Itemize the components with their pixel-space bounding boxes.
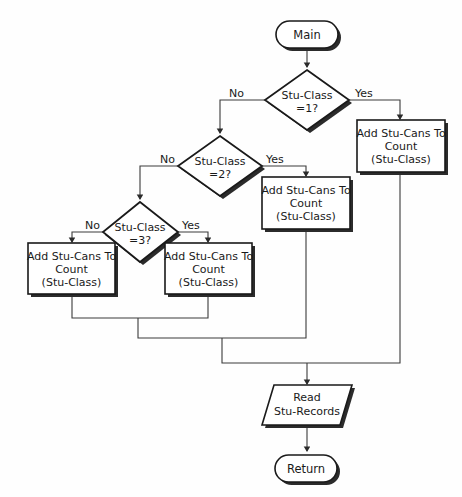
node-decision-stu-class-2[interactable]: Stu-Class =2? (178, 136, 265, 199)
node-process-add-cans-4[interactable]: Add Stu-Cans To Count (Stu-Class) (164, 243, 255, 297)
node-end-terminator[interactable]: Return (275, 455, 340, 485)
node-decision-stu-class-1[interactable]: Stu-Class =1? (265, 70, 352, 133)
node-proc3-label-line3: (Stu-Class) (42, 276, 102, 289)
node-proc1-label-line1: Add Stu-Cans To (356, 127, 446, 140)
node-proc2-label-line1: Add Stu-Cans To (261, 184, 351, 197)
node-dec2-label-line2: =2? (209, 168, 231, 181)
node-start-label: Main (293, 28, 320, 42)
edge-dec2-yes-to-proc2 (262, 166, 306, 176)
flowchart-svg: Main Stu-Class =1? No Yes Stu-Class =2? … (0, 0, 462, 497)
edge-railB-to-railC (222, 338, 307, 363)
node-read-label-line1: Read (293, 391, 321, 404)
node-proc3-label-line2: Count (55, 263, 88, 276)
node-process-add-cans-2[interactable]: Add Stu-Cans To Count (Stu-Class) (261, 177, 353, 232)
edge-dec3-yes-to-proc4 (178, 232, 208, 242)
node-proc3-label-line1: Add Stu-Cans To (27, 250, 117, 263)
edge-dec2-no-to-dec3 (140, 166, 178, 199)
edge-label-dec2-no: No (160, 153, 175, 166)
edge-railA-to-railB (138, 318, 222, 338)
node-process-add-cans-3[interactable]: Add Stu-Cans To Count (Stu-Class) (27, 243, 118, 297)
edge-label-dec3-no: No (85, 219, 100, 232)
node-proc4-label-line1: Add Stu-Cans To (164, 250, 254, 263)
edge-label-dec1-no: No (229, 87, 244, 100)
edge-label-dec3-yes: Yes (181, 219, 200, 232)
node-proc4-label-line3: (Stu-Class) (179, 276, 239, 289)
node-dec2-label-line1: Stu-Class (194, 155, 245, 168)
node-read-label-line2: Stu-Records (274, 405, 340, 418)
edge-dec1-yes-to-proc1 (349, 100, 400, 119)
node-proc4-label-line2: Count (192, 263, 225, 276)
edge-dec1-no-to-dec2 (220, 100, 265, 133)
node-end-label: Return (287, 462, 325, 476)
edge-label-dec2-yes: Yes (265, 153, 284, 166)
edge-label-dec1-yes: Yes (354, 87, 373, 100)
node-proc1-label-line2: Count (385, 140, 418, 153)
node-io-read-stu-records[interactable]: Read Stu-Records (262, 385, 355, 428)
node-dec3-label-line1: Stu-Class (114, 221, 165, 234)
node-proc2-label-line2: Count (290, 197, 323, 210)
node-process-add-cans-1[interactable]: Add Stu-Cans To Count (Stu-Class) (356, 120, 448, 175)
edge-dec3-no-to-proc3 (72, 232, 103, 242)
flowchart-canvas: Main Stu-Class =1? No Yes Stu-Class =2? … (0, 0, 462, 497)
node-dec3-label-line2: =3? (129, 234, 151, 247)
node-proc2-label-line3: (Stu-Class) (276, 210, 336, 223)
node-proc1-label-line3: (Stu-Class) (371, 153, 431, 166)
node-dec1-label-line2: =1? (296, 102, 318, 115)
edge-proc3-merge (72, 294, 138, 318)
edge-proc4-merge (138, 294, 208, 318)
node-dec1-label-line1: Stu-Class (281, 89, 332, 102)
node-start-terminator[interactable]: Main (276, 21, 341, 51)
